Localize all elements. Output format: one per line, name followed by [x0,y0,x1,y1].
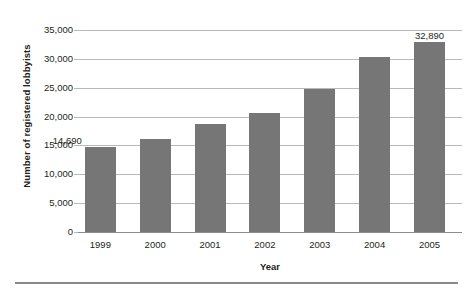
x-axis-line [78,232,462,233]
y-axis-tick-label-10000: 10,000 [44,169,73,179]
y-axis-title: Number of registered lobbyists [18,0,36,232]
ytick-stub-0 [74,232,78,233]
y-axis-tick-label-20000: 20,000 [44,112,73,122]
footer-divider [15,282,458,284]
bar-2003[interactable] [304,89,335,232]
bar-series: 14,690 1999 2000 2001 2002 2 [78,30,462,232]
bar-chart-figure: Number of registered lobbyists 35,000 30… [0,0,473,288]
bar-1999[interactable] [85,147,116,232]
bar-2002[interactable] [249,113,280,232]
bar-group-2002[interactable]: 2002 [249,30,280,232]
x-axis-tick-label-2001: 2001 [199,239,220,250]
plot-area: 35,000 30,000 25,000 20,000 15,000 10,00… [78,30,462,232]
bar-group-2000[interactable]: 2000 [140,30,171,232]
y-axis-tick-label-5000: 5,000 [49,198,73,208]
x-axis-tick-label-2004: 2004 [364,239,385,250]
bar-value-label-1999: 14,690 [53,135,82,146]
bar-2000[interactable] [140,139,171,232]
x-axis-title: Year [78,261,462,273]
bar-2004[interactable] [359,57,390,232]
bar-group-2003[interactable]: 2003 [304,30,335,232]
y-axis-tick-label-35000: 35,000 [44,25,73,35]
x-axis-tick-label-2005: 2005 [419,239,440,250]
y-axis-tick-label-30000: 30,000 [44,54,73,64]
bar-2001[interactable] [195,124,226,232]
x-axis-tick-label-1999: 1999 [90,239,111,250]
bar-group-2004[interactable]: 2004 [359,30,390,232]
x-axis-tick-label-2002: 2002 [254,239,275,250]
y-axis-tick-label-0: 0 [68,227,73,237]
bar-2005[interactable] [414,42,445,232]
x-axis-tick-label-2000: 2000 [145,239,166,250]
x-axis-tick-label-2003: 2003 [309,239,330,250]
y-axis-tick-label-25000: 25,000 [44,83,73,93]
bar-group-1999[interactable]: 14,690 1999 [85,30,116,232]
bar-group-2001[interactable]: 2001 [195,30,226,232]
bar-value-label-2005: 32,890 [415,30,444,41]
bar-group-2005[interactable]: 32,890 2005 [414,30,445,232]
